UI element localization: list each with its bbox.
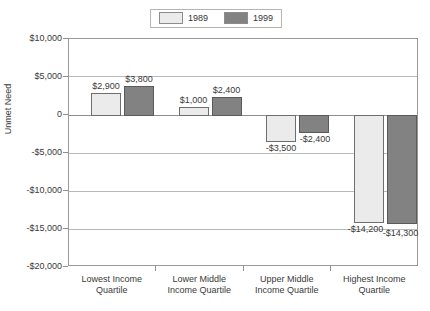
bar-1999-2[interactable]	[299, 115, 329, 133]
x-label-1: Lower Middle Income Quartile	[156, 274, 244, 296]
bar-1999-3[interactable]	[387, 115, 417, 224]
bar-group-3: -$14,200 -$14,300	[332, 39, 420, 265]
y-tick-label: -$15,000	[0, 224, 62, 233]
x-tick-mark	[243, 266, 244, 271]
x-label-line: Lowest Income	[68, 274, 156, 285]
y-tick-label: $5,000	[0, 72, 62, 81]
x-tick-mark	[155, 266, 156, 271]
x-label-2: Upper Middle Income Quartile	[243, 274, 331, 296]
x-label-0: Lowest Income Quartile	[68, 274, 156, 296]
y-tick-label: $10,000	[0, 34, 62, 43]
x-label-line: Quartile	[331, 285, 419, 296]
chart-figure: 1989 1999 Unmet Need $10,000 $5,000 0 -$…	[0, 0, 430, 311]
x-axis-labels: Lowest Income Quartile Lower Middle Inco…	[68, 274, 418, 304]
bar-label-1999-3: -$14,300	[365, 228, 430, 238]
x-label-line: Quartile	[68, 285, 156, 296]
x-label-line: Upper Middle	[243, 274, 331, 285]
bar-label-1989-2: -$3,500	[248, 143, 314, 153]
bar-1989-1[interactable]	[179, 107, 209, 116]
x-tick-mark	[330, 266, 331, 271]
bar-group-2: -$3,500 -$2,400	[244, 39, 332, 265]
x-label-line: Highest Income	[331, 274, 419, 285]
bar-1999-1[interactable]	[212, 97, 242, 116]
bar-1999-0[interactable]	[124, 86, 154, 116]
y-tick-label: -$20,000	[0, 262, 62, 271]
cropped-caption-strip	[0, 303, 430, 311]
y-tick-label: -$5,000	[0, 148, 62, 157]
bar-1989-0[interactable]	[91, 93, 121, 116]
x-label-line: Lower Middle	[156, 274, 244, 285]
x-axis-ticks	[68, 266, 418, 272]
plot-area: $2,900 $3,800 $1,000 $2,400 -$3,500 -$2,…	[68, 38, 418, 266]
x-label-3: Highest Income Quartile	[331, 274, 419, 296]
bar-1989-3[interactable]	[354, 115, 384, 223]
bar-group-1: $1,000 $2,400	[157, 39, 245, 265]
x-label-line: Income Quartile	[156, 285, 244, 296]
y-tick-label: -$10,000	[0, 186, 62, 195]
y-tick-label: 0	[0, 110, 62, 119]
bar-group-0: $2,900 $3,800	[69, 39, 157, 265]
x-label-line: Income Quartile	[243, 285, 331, 296]
